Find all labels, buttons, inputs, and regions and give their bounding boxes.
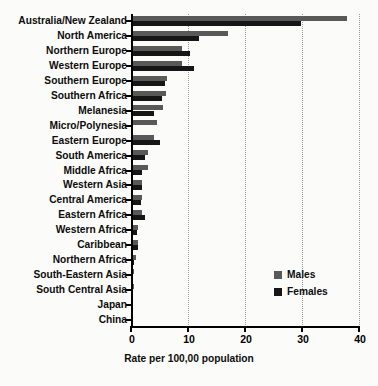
bar-female — [131, 96, 162, 101]
y-axis-label-central-america: Central America — [49, 195, 127, 205]
y-axis-label-caribbean: Caribbean — [77, 240, 127, 250]
y-axis-label-south-eastern-asia: South-Eastern Asia — [33, 270, 127, 280]
x-axis-tick-40 — [358, 326, 360, 332]
y-axis-line — [131, 14, 133, 327]
x-axis-tick-10 — [187, 326, 189, 332]
y-axis-label-western-africa: Western Africa — [56, 225, 127, 235]
y-axis-label-south-central-asia: South Central Asia — [36, 285, 127, 295]
rate-per-population-bar-chart: Australia/New ZealandNorth AmericaNorthe… — [0, 0, 378, 386]
y-axis-label-micro-polynesia: Micro/Polynesia — [49, 121, 127, 131]
bar-female — [131, 21, 301, 26]
x-axis-tick-label-30: 30 — [283, 333, 323, 345]
legend-swatch-females-icon — [274, 288, 282, 296]
y-axis-label-southern-africa: Southern Africa — [51, 91, 127, 101]
gridline-40 — [359, 14, 360, 327]
x-axis-tick-label-0: 0 — [112, 333, 152, 345]
y-axis-label-southern-europe: Southern Europe — [44, 76, 127, 86]
x-axis-tick-label-10: 10 — [169, 333, 209, 345]
y-axis-label-eastern-europe: Eastern Europe — [52, 136, 127, 146]
legend-item-females: Females — [274, 283, 328, 300]
y-axis-label-northern-europe: Northern Europe — [46, 46, 127, 56]
bar-female — [131, 155, 145, 160]
x-axis-tick-30 — [301, 326, 303, 332]
y-axis-label-middle-africa: Middle Africa — [63, 166, 127, 176]
y-axis-label-south-america: South America — [55, 151, 127, 161]
bar-female — [131, 51, 190, 56]
y-axis-label-australia-new-zealand: Australia/New Zealand — [18, 16, 127, 26]
x-axis-tick-20 — [244, 326, 246, 332]
legend-item-males: Males — [274, 266, 328, 283]
bar-female — [131, 111, 154, 116]
gridline-20 — [245, 14, 246, 327]
legend-label-females: Females — [287, 286, 328, 297]
y-axis-label-eastern-africa: Eastern Africa — [58, 210, 127, 220]
x-axis-tick-0 — [130, 326, 132, 332]
y-axis-label-northern-africa: Northern Africa — [53, 255, 127, 265]
y-axis-label-china: China — [99, 315, 127, 325]
bar-female — [131, 215, 145, 220]
x-axis-tick-label-40: 40 — [340, 333, 378, 345]
bar-male — [131, 120, 157, 125]
bar-female — [131, 81, 165, 86]
y-axis-label-north-america: North America — [57, 31, 127, 41]
bar-female — [131, 36, 199, 41]
y-axis-label-melanesia: Melanesia — [78, 106, 127, 116]
x-axis-tick-label-20: 20 — [226, 333, 266, 345]
legend-swatch-males-icon — [274, 271, 282, 279]
y-axis-label-western-asia: Western Asia — [63, 180, 127, 190]
y-axis-label-japan: Japan — [98, 300, 127, 310]
legend-label-males: Males — [287, 269, 315, 280]
x-axis-title: Rate per 100,00 population — [0, 353, 378, 364]
y-axis-label-western-europe: Western Europe — [49, 61, 127, 71]
bar-female — [131, 66, 194, 71]
bar-female — [131, 140, 160, 145]
gridline-10 — [188, 14, 189, 327]
chart-legend: Males Females — [274, 266, 328, 300]
